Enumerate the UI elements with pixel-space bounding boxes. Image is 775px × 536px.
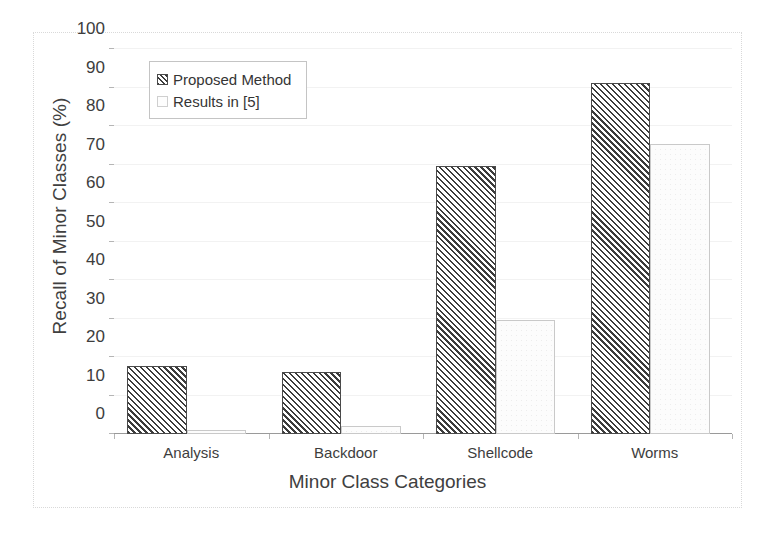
y-tick-mark <box>109 125 114 126</box>
legend-swatch-dots-icon <box>157 96 168 107</box>
y-tick-mark <box>109 279 114 280</box>
bar-shellcode-results-in-5 <box>496 320 555 434</box>
bar-backdoor-results-in-5 <box>341 426 400 434</box>
x-tick-label-worms: Worms <box>631 444 678 461</box>
x-axis-title: Minor Class Categories <box>34 471 741 493</box>
bar-worms-results-in-5 <box>650 144 709 434</box>
legend-item-proposed-method: Proposed Method <box>157 68 298 90</box>
x-tick-label-analysis: Analysis <box>163 444 219 461</box>
y-tick-mark <box>109 318 114 319</box>
x-tick-mark <box>578 434 579 439</box>
y-tick-label: 20 <box>86 327 105 347</box>
y-tick-mark <box>109 202 114 203</box>
figure-panel: Recall of Minor Classes (%) Minor Class … <box>33 32 742 508</box>
x-tick-mark <box>423 434 424 439</box>
y-tick-label: 90 <box>86 58 105 78</box>
y-tick-label: 80 <box>86 96 105 116</box>
y-tick-label: 40 <box>86 250 105 270</box>
legend-item-results-in-5: Results in [5] <box>157 90 298 112</box>
y-tick-mark <box>109 356 114 357</box>
y-tick-mark <box>109 395 114 396</box>
y-tick-label: 50 <box>86 212 105 232</box>
y-tick-label: 60 <box>86 173 105 193</box>
bar-analysis-proposed-method <box>127 366 186 434</box>
gridline <box>114 48 732 49</box>
y-tick-mark <box>109 164 114 165</box>
chart-legend: Proposed Method Results in [5] <box>149 61 307 119</box>
bar-analysis-results-in-5 <box>187 430 246 434</box>
x-tick-label-shellcode: Shellcode <box>467 444 533 461</box>
y-axis-title: Recall of Minor Classes (%) <box>49 36 71 396</box>
bar-backdoor-proposed-method <box>282 372 341 434</box>
y-tick-mark <box>109 87 114 88</box>
bar-worms-proposed-method <box>591 83 650 434</box>
y-tick-label: 0 <box>96 404 105 424</box>
legend-label: Proposed Method <box>173 71 291 88</box>
y-tick-label: 10 <box>86 366 105 386</box>
x-tick-label-backdoor: Backdoor <box>314 444 377 461</box>
x-tick-mark <box>732 434 733 439</box>
x-tick-mark <box>269 434 270 439</box>
y-tick-label: 70 <box>86 135 105 155</box>
legend-swatch-hatch-icon <box>157 74 168 85</box>
y-tick-mark <box>109 48 114 49</box>
y-tick-label: 30 <box>86 289 105 309</box>
x-tick-mark <box>114 434 115 439</box>
y-tick-label: 100 <box>77 19 105 39</box>
bar-shellcode-proposed-method <box>436 166 495 434</box>
y-tick-mark <box>109 241 114 242</box>
legend-label: Results in [5] <box>173 93 260 110</box>
